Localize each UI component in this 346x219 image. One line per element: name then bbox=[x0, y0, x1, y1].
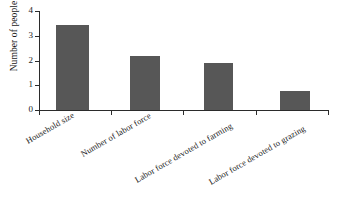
y-tick-label-4: 4 bbox=[29, 5, 34, 16]
x-tick-3 bbox=[256, 111, 257, 115]
y-tick-1: 1 bbox=[35, 85, 39, 86]
x-tick-2 bbox=[183, 111, 184, 115]
y-tick-3: 3 bbox=[35, 36, 39, 37]
x-label-household-size: Household size bbox=[24, 110, 76, 146]
x-tick-0 bbox=[39, 111, 40, 115]
y-axis-title: Number of people bbox=[7, 0, 21, 86]
y-axis-line bbox=[39, 11, 40, 111]
y-tick-label-0: 0 bbox=[29, 104, 34, 115]
y-tick-4: 4 bbox=[35, 11, 39, 12]
y-tick-label-3: 3 bbox=[29, 30, 34, 41]
x-tick-4 bbox=[328, 111, 329, 115]
x-axis-line bbox=[39, 110, 329, 111]
y-tick-2: 2 bbox=[35, 61, 39, 62]
y-tick-label-2: 2 bbox=[29, 55, 34, 66]
x-label-number-of-labor-force: Number of labor force bbox=[79, 110, 153, 158]
bar-chart-figure: Number of people 4 3 2 1 0 House bbox=[0, 0, 346, 219]
x-tick-1 bbox=[111, 111, 112, 115]
bar-labor-force-farming[interactable] bbox=[204, 63, 233, 110]
bar-labor-force-grazing[interactable] bbox=[280, 91, 310, 110]
y-tick-label-1: 1 bbox=[29, 79, 34, 90]
bar-number-of-labor-force[interactable] bbox=[130, 56, 160, 110]
bar-household-size[interactable] bbox=[56, 25, 89, 110]
plot-area: 4 3 2 1 0 bbox=[39, 11, 329, 111]
